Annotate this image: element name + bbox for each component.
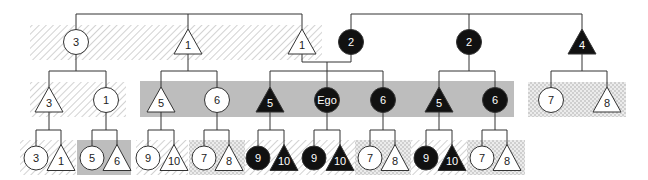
female-node: 5 [80,146,104,170]
kinship-diagram: 31122431565Ego65678315691078910910789107… [0,0,648,180]
node-label: 8 [392,155,398,167]
ego-node: Ego [315,88,340,113]
node-label: 1 [299,39,305,51]
node-label: Ego [317,94,337,106]
node-label: 9 [255,152,261,164]
node-label: 5 [267,97,273,109]
female-node: 7 [470,146,494,170]
node-label: 2 [348,36,354,48]
female-node: 1 [94,88,119,113]
node-label: 9 [311,152,317,164]
node-label: 8 [504,155,510,167]
node-label: 1 [185,39,191,51]
node-label: 6 [214,94,220,106]
node-label: 5 [436,97,442,109]
female-node: 6 [205,88,230,113]
female-node: 7 [539,88,564,113]
female-node: 3 [24,146,48,170]
female-node: 7 [358,146,382,170]
female-node: 3 [64,30,89,55]
female-node: 9 [246,146,270,170]
female-node: 2 [457,30,482,55]
node-label: 10 [334,155,346,167]
node-label: 1 [58,155,64,167]
node-label: 7 [201,152,207,164]
female-node: 9 [414,146,438,170]
node-label: 6 [492,94,498,106]
node-label: 8 [604,97,610,109]
node-label: 10 [278,155,290,167]
node-label: 8 [226,155,232,167]
node-label: 10 [168,155,180,167]
node-label: 10 [446,155,458,167]
node-label: 3 [46,97,52,109]
female-node: 6 [371,88,396,113]
node-label: 5 [89,152,95,164]
node-label: 3 [73,36,79,48]
node-label: 1 [103,94,109,106]
male-node: 4 [568,29,596,54]
node-label: 2 [466,36,472,48]
node-label: 9 [423,152,429,164]
node-label: 6 [114,155,120,167]
node-label: 6 [380,94,386,106]
node-label: 7 [479,152,485,164]
female-node: 7 [192,146,216,170]
female-node: 2 [339,30,364,55]
node-label: 5 [158,97,164,109]
node-label: 4 [579,39,585,51]
female-node: 9 [136,146,160,170]
node-label: 7 [548,94,554,106]
female-node: 6 [483,88,508,113]
node-label: 9 [145,152,151,164]
node-label: 3 [33,152,39,164]
female-node: 9 [302,146,326,170]
node-label: 7 [367,152,373,164]
